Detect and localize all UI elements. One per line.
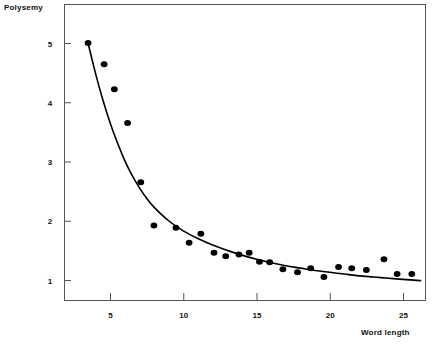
x-tick-label-10: 10	[179, 311, 188, 320]
data-point	[348, 265, 355, 271]
x-tick-label-15: 15	[253, 311, 262, 320]
data-point	[173, 225, 180, 231]
scatter-data-points	[85, 40, 416, 280]
data-point	[197, 231, 204, 237]
y-axis-tickmarks	[64, 44, 71, 281]
data-point	[307, 265, 314, 271]
y-tick-label-2: 2	[48, 217, 53, 226]
fitted-curve	[88, 43, 421, 281]
x-axis-title: Word length	[361, 328, 410, 337]
x-axis-tickmarks	[111, 293, 404, 300]
data-point	[381, 256, 388, 262]
data-point	[111, 86, 118, 92]
data-point	[211, 250, 218, 256]
y-tick-label-3: 3	[48, 158, 53, 167]
x-tick-label-25: 25	[399, 311, 408, 320]
data-point	[408, 271, 415, 277]
x-tick-label-20: 20	[326, 311, 335, 320]
chart-canvas: 12345 510152025	[0, 0, 432, 345]
data-point	[256, 259, 263, 265]
data-point	[266, 259, 273, 265]
data-point	[294, 269, 301, 275]
data-point	[222, 253, 229, 259]
y-tick-label-4: 4	[48, 99, 53, 108]
data-point	[124, 120, 131, 126]
data-point	[320, 274, 327, 280]
data-point	[186, 240, 193, 246]
y-axis-title: Polysemy	[4, 3, 43, 12]
x-tick-label-5: 5	[108, 311, 113, 320]
data-point	[85, 40, 92, 46]
y-tick-label-1: 1	[48, 277, 53, 286]
data-point	[335, 264, 342, 270]
data-point	[137, 179, 144, 185]
y-axis-tick-labels: 12345	[48, 40, 53, 286]
y-tick-label-5: 5	[48, 40, 53, 49]
data-point	[101, 61, 108, 67]
x-axis-tick-labels: 510152025	[108, 311, 408, 320]
data-point	[236, 252, 243, 258]
data-point	[394, 271, 401, 277]
data-point	[151, 222, 158, 228]
polysemy-word-length-figure: Polysemy Word length 12345 510152025	[0, 0, 432, 345]
data-point	[279, 266, 286, 272]
data-point	[363, 267, 370, 273]
data-point	[246, 250, 253, 256]
